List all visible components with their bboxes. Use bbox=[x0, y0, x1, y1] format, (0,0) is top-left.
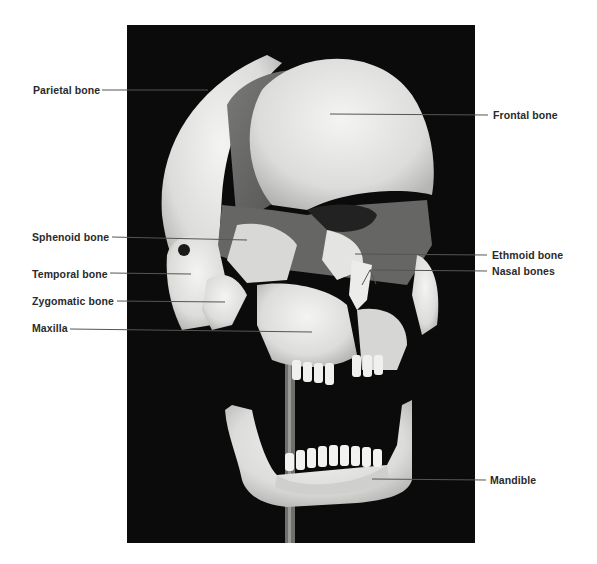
label-zygomatic-bone: Zygomatic bone bbox=[32, 295, 114, 307]
skull-illustration bbox=[127, 25, 475, 543]
label-parietal-bone: Parietal bone bbox=[33, 84, 100, 96]
maxilla-shape bbox=[257, 283, 357, 367]
skull-photo bbox=[127, 25, 475, 543]
label-maxilla: Maxilla bbox=[32, 322, 68, 334]
label-nasal-bones: Nasal bones bbox=[492, 265, 555, 277]
nasal-bones-shape bbox=[349, 260, 372, 310]
label-ethmoid-bone: Ethmoid bone bbox=[492, 249, 563, 261]
label-sphenoid-bone: Sphenoid bone bbox=[32, 231, 109, 243]
label-mandible: Mandible bbox=[490, 474, 536, 486]
zygomatic-bone-shape bbox=[202, 275, 247, 330]
frontal-bone-shape bbox=[250, 59, 434, 210]
label-temporal-bone: Temporal bone bbox=[32, 268, 108, 280]
label-frontal-bone: Frontal bone bbox=[493, 109, 558, 121]
